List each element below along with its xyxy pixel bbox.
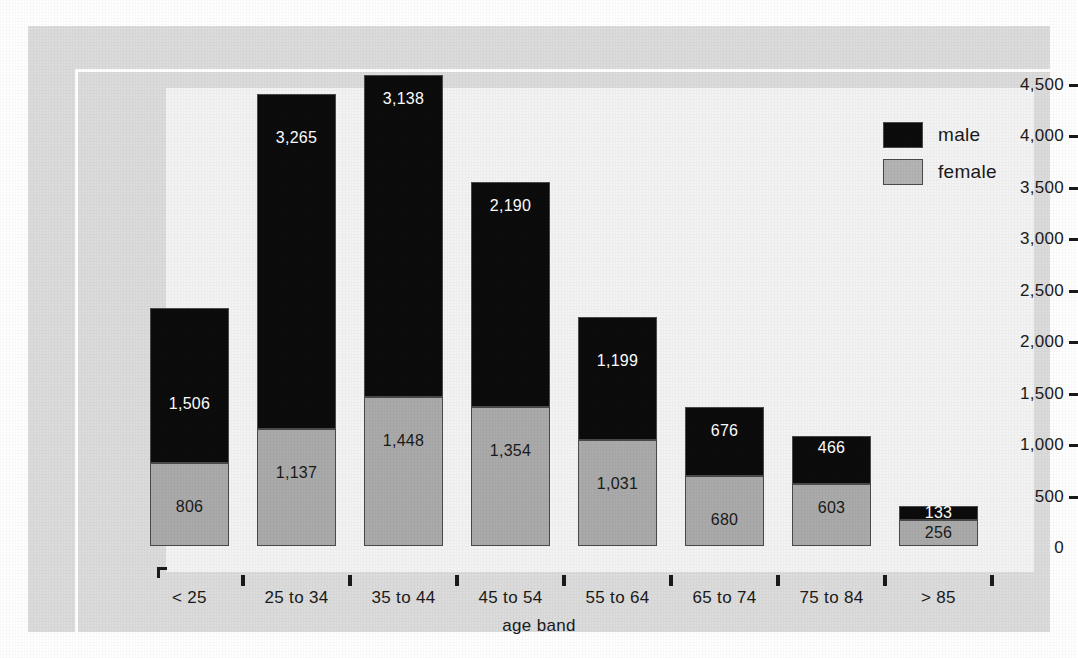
bar-value-label: 3,138 bbox=[383, 90, 425, 108]
y-tick-mark bbox=[1069, 393, 1078, 396]
bar-group: 1,031 1,199 bbox=[578, 317, 657, 546]
bar-value-label: 2,190 bbox=[490, 197, 532, 215]
bar-group: 603 466 bbox=[792, 436, 871, 546]
bar-value-label: 1,354 bbox=[490, 442, 532, 460]
x-tick-label-75to84: 75 to 84 bbox=[792, 588, 871, 608]
bar-segment-female: 806 bbox=[150, 463, 229, 546]
y-tick-mark bbox=[1069, 444, 1078, 447]
bar-segment-female: 1,137 bbox=[257, 429, 336, 546]
bar-segment-male: 676 bbox=[685, 407, 764, 476]
bar-value-label: 680 bbox=[711, 511, 739, 529]
bar-group: 256 133 bbox=[899, 506, 978, 546]
x-axis-title: age band bbox=[28, 616, 1050, 636]
bar-value-label: 1,137 bbox=[276, 464, 318, 482]
y-tick-mark bbox=[1069, 187, 1078, 190]
bar-value-label: 806 bbox=[176, 498, 204, 516]
bar-value-label: 3,265 bbox=[276, 129, 318, 147]
legend-swatch-male-icon bbox=[883, 122, 923, 148]
y-tick-mark bbox=[1069, 84, 1078, 87]
bar-segment-male: 466 bbox=[792, 436, 871, 484]
x-tick-label-lt25: < 25 bbox=[150, 588, 229, 608]
bar-value-label: 1,506 bbox=[169, 395, 211, 413]
bar-value-label: 1,199 bbox=[597, 352, 639, 370]
bar-value-label: 256 bbox=[925, 524, 953, 542]
y-tick-label: 500 bbox=[1035, 488, 1064, 506]
y-tick-mark bbox=[1069, 496, 1078, 499]
x-tick-label-35to44: 35 to 44 bbox=[364, 588, 443, 608]
bar-group: 680 676 bbox=[685, 407, 764, 546]
bar-segment-male: 3,265 bbox=[257, 94, 336, 429]
bar-segment-male: 133 bbox=[899, 506, 978, 520]
bar-value-label: 1,448 bbox=[383, 432, 425, 450]
y-tick-label: 0 bbox=[1054, 539, 1064, 557]
bar-segment-female: 256 bbox=[899, 520, 978, 546]
bar-segment-female: 603 bbox=[792, 484, 871, 546]
bar-segment-female: 680 bbox=[685, 476, 764, 546]
bar-segment-male: 1,506 bbox=[150, 308, 229, 463]
y-tick-mark bbox=[1069, 135, 1078, 138]
x-tick-mark bbox=[348, 575, 352, 586]
x-tick-label-55to64: 55 to 64 bbox=[578, 588, 657, 608]
x-tick-mark bbox=[455, 575, 459, 586]
legend-item-female: female bbox=[883, 159, 997, 185]
bar-segment-female: 1,448 bbox=[364, 397, 443, 546]
bar-segment-male: 3,138 bbox=[364, 75, 443, 397]
bar-value-label: 1,031 bbox=[597, 475, 639, 493]
x-tick-mark bbox=[562, 575, 566, 586]
bar-group: 806 1,506 bbox=[150, 308, 229, 546]
origin-tick bbox=[157, 567, 167, 578]
chart-panel: 4,500 4,000 3,500 3,000 2,500 2,000 bbox=[28, 26, 1050, 632]
x-tick-label-gt85: > 85 bbox=[899, 588, 978, 608]
x-tick-mark bbox=[669, 575, 673, 586]
bar-segment-male: 2,190 bbox=[471, 182, 550, 407]
bar-value-label: 676 bbox=[711, 422, 739, 440]
x-tick-mark bbox=[990, 575, 994, 586]
x-tick-label-25to34: 25 to 34 bbox=[257, 588, 336, 608]
y-tick-mark bbox=[1069, 238, 1078, 241]
bar-value-label: 466 bbox=[818, 439, 846, 457]
legend-label-female: female bbox=[938, 161, 997, 183]
bar-segment-female: 1,031 bbox=[578, 440, 657, 546]
bar-group: 1,137 3,265 bbox=[257, 94, 336, 546]
bar-value-label: 603 bbox=[818, 499, 846, 517]
x-tick-label-45to54: 45 to 54 bbox=[471, 588, 550, 608]
y-tick-mark bbox=[1069, 290, 1078, 293]
bar-segment-female: 1,354 bbox=[471, 407, 550, 546]
legend-label-male: male bbox=[938, 124, 980, 146]
legend-swatch-female-icon bbox=[883, 159, 923, 185]
legend: male female bbox=[883, 122, 997, 196]
bar-segment-male: 1,199 bbox=[578, 317, 657, 440]
x-tick-mark bbox=[883, 575, 887, 586]
legend-item-male: male bbox=[883, 122, 997, 148]
x-tick-label-65to74: 65 to 74 bbox=[685, 588, 764, 608]
x-tick-mark bbox=[241, 575, 245, 586]
bar-value-label: 133 bbox=[925, 504, 953, 522]
bar-group: 1,448 3,138 bbox=[364, 75, 443, 546]
x-tick-mark bbox=[776, 575, 780, 586]
bar-group: 1,354 2,190 bbox=[471, 182, 550, 546]
y-tick-mark bbox=[1069, 341, 1078, 344]
